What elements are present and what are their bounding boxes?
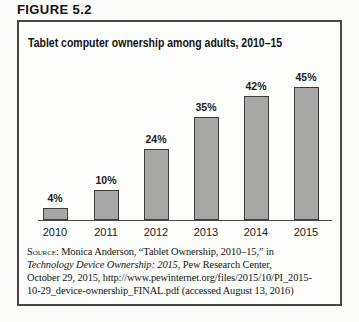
bar bbox=[43, 208, 68, 220]
source-line: Technology Device Ownership: 2015, Pew R… bbox=[27, 258, 339, 271]
source-segment: Source: bbox=[27, 246, 59, 257]
x-axis-line bbox=[38, 220, 332, 221]
source-segment: , Pew Research Center, bbox=[178, 259, 272, 270]
source-line: October 29, 2015, http://www.pewinternet… bbox=[27, 271, 339, 284]
bar bbox=[194, 117, 219, 220]
source-note: Source: Monica Anderson, “Tablet Ownersh… bbox=[27, 245, 339, 297]
bar bbox=[144, 149, 169, 220]
chart-box: Tablet computer ownership among adults, … bbox=[17, 20, 342, 306]
source-segment: October 29, 2015, http://www.pewinternet… bbox=[27, 272, 312, 283]
bar-value-label: 35% bbox=[186, 101, 226, 113]
x-axis-label: 2015 bbox=[284, 226, 328, 238]
source-segment: Technology Device Ownership: 2015 bbox=[27, 259, 178, 270]
source-line: Source: Monica Anderson, “Tablet Ownersh… bbox=[27, 245, 339, 258]
source-segment: Monica Anderson, “Tablet Ownership, 2010… bbox=[59, 246, 274, 257]
source-line: 10-29_device-ownership_FINAL.pdf (access… bbox=[27, 284, 339, 297]
source-segment: 10-29_device-ownership_FINAL.pdf (access… bbox=[27, 285, 294, 296]
bar-value-label: 4% bbox=[35, 192, 75, 204]
x-axis-label: 2014 bbox=[234, 226, 278, 238]
bar-value-label: 24% bbox=[136, 133, 176, 145]
bar bbox=[294, 87, 319, 220]
page-root: FIGURE 5.2 Tablet computer ownership amo… bbox=[0, 0, 359, 322]
bar-value-label: 42% bbox=[236, 80, 276, 92]
bar bbox=[94, 190, 119, 220]
x-axis-label: 2012 bbox=[134, 226, 178, 238]
x-axis-label: 2013 bbox=[184, 226, 228, 238]
bar-value-label: 10% bbox=[86, 174, 126, 186]
bar-value-label: 45% bbox=[286, 71, 326, 83]
x-axis-label: 2010 bbox=[33, 226, 77, 238]
figure-label: FIGURE 5.2 bbox=[17, 2, 92, 17]
x-axis-label: 2011 bbox=[84, 226, 128, 238]
bar bbox=[244, 96, 269, 220]
